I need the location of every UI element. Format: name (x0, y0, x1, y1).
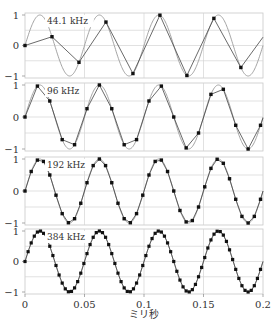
sample-point (197, 275, 200, 278)
sample-point (178, 278, 181, 281)
sample-point (237, 277, 240, 280)
sample-point (138, 273, 141, 276)
x-tick-label: 0.05 (73, 299, 95, 310)
sample-point (85, 107, 88, 110)
sample-point (246, 221, 249, 224)
sample-point (30, 241, 33, 244)
sample-point (259, 198, 262, 201)
y-tick-label: 1 (13, 226, 19, 237)
sample-point (33, 235, 36, 238)
sample-point (191, 219, 194, 222)
sample-point (61, 281, 64, 284)
sample-point (175, 270, 178, 273)
sample-point (129, 221, 132, 224)
sample-point (98, 229, 101, 232)
sample-point (172, 189, 175, 192)
sample-point (85, 181, 88, 184)
sample-point (234, 268, 237, 271)
sample-point (222, 162, 225, 165)
panel-label: 384 kHz (47, 232, 85, 242)
sample-point (259, 268, 262, 271)
sample-point (234, 124, 237, 127)
sample-point (36, 158, 39, 161)
sample-point (76, 280, 79, 283)
sample-point (135, 281, 138, 284)
sample-point (246, 147, 249, 150)
sample-point (259, 124, 262, 127)
sample-point (172, 115, 175, 118)
sample-point (36, 84, 39, 87)
sample-point (144, 254, 147, 257)
sample-point (123, 286, 126, 289)
sample-point (163, 235, 166, 238)
sample-point (212, 17, 215, 20)
sample-point (48, 173, 51, 176)
sample-point (135, 138, 138, 141)
sample-point (104, 164, 107, 167)
sample-point (172, 260, 175, 263)
sample-point (209, 93, 212, 96)
sample-point (191, 288, 194, 291)
sample-point (132, 287, 135, 290)
sample-point (228, 177, 231, 180)
y-tick-label: 1 (13, 154, 19, 165)
sample-point (200, 266, 203, 269)
sample-point (147, 173, 150, 176)
sample-point (240, 284, 243, 287)
panel-96-khz: 10−196 kHz (4, 80, 263, 155)
x-axis: 00.050.10.150.2 (22, 294, 271, 310)
panel-44-1-khz: 10−144.1 kHz (4, 10, 263, 82)
sample-point (42, 160, 45, 163)
sample-point (253, 284, 256, 287)
sample-point (36, 230, 39, 233)
sample-point (67, 221, 70, 224)
sample-point (219, 230, 222, 233)
panel-label: 44.1 kHz (47, 16, 88, 26)
panel-label: 192 kHz (47, 160, 85, 170)
sample-point (209, 167, 212, 170)
sample-point (194, 283, 197, 286)
sample-point (91, 164, 94, 167)
sample-point (181, 285, 184, 288)
sample-point (157, 229, 160, 232)
x-tick-label: 0 (22, 299, 28, 310)
sample-point (126, 290, 129, 293)
sample-point (64, 287, 67, 290)
sample-point (23, 44, 26, 47)
y-tick-label: 0 (13, 186, 19, 197)
sample-point (110, 107, 113, 110)
sample-point (50, 35, 53, 38)
sample-point (98, 83, 101, 86)
sample-point (119, 280, 122, 283)
sample-point (79, 272, 82, 275)
sample-point (67, 290, 70, 293)
sample-point (30, 170, 33, 173)
panel-label: 96 kHz (47, 86, 80, 96)
sample-point (110, 181, 113, 184)
sample-point (243, 289, 246, 292)
sample-point (240, 215, 243, 218)
y-tick-label: 0 (13, 40, 19, 51)
sample-point (129, 290, 132, 293)
y-tick-label: 1 (13, 10, 19, 21)
sample-point (203, 256, 206, 259)
sample-point (77, 61, 80, 64)
sample-point (209, 238, 212, 241)
sample-point (166, 241, 169, 244)
sample-point (234, 198, 237, 201)
sample-point (79, 202, 82, 205)
sample-point (154, 232, 157, 235)
panels: 10−144.1 kHz10−196 kHz10−1192 kHz10−1384… (4, 10, 263, 298)
sample-point (27, 250, 30, 253)
sample-point (48, 99, 51, 102)
sample-point (54, 264, 57, 267)
sample-point (113, 262, 116, 265)
sample-point (212, 233, 215, 236)
sample-point (82, 262, 85, 265)
sample-point (250, 289, 253, 292)
sample-point (222, 88, 225, 91)
sample-point (23, 260, 26, 263)
sample-point (23, 115, 26, 118)
sample-point (184, 220, 187, 223)
y-tick-label: 0 (13, 112, 19, 123)
